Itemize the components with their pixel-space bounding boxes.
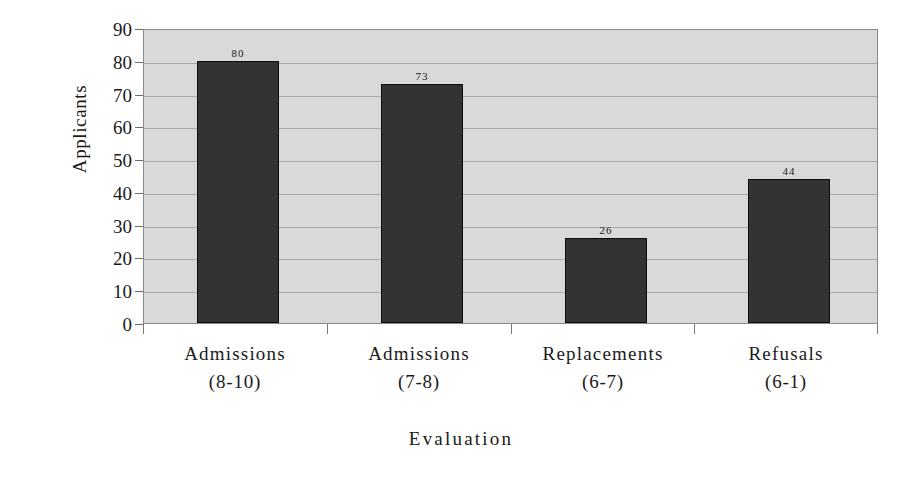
x-category-name: Replacements bbox=[543, 343, 664, 364]
y-tick-label: 70 bbox=[88, 85, 132, 104]
y-tickmark bbox=[135, 62, 143, 63]
x-category-name: Admissions bbox=[184, 343, 286, 364]
x-tickmark bbox=[511, 324, 512, 334]
x-category-name: Admissions bbox=[368, 343, 470, 364]
x-category-label: Refusals (6-1) bbox=[748, 340, 823, 395]
y-tick-label: 90 bbox=[88, 20, 132, 39]
bar-value-label: 73 bbox=[416, 70, 429, 82]
y-tick-label: 10 bbox=[88, 282, 132, 301]
y-tick-label: 40 bbox=[88, 183, 132, 202]
y-tickmark bbox=[135, 95, 143, 96]
y-tick-label: 30 bbox=[88, 216, 132, 235]
bar-value-label: 26 bbox=[600, 224, 613, 236]
bar-admissions-8-10 bbox=[197, 61, 279, 323]
y-tickmark bbox=[135, 291, 143, 292]
bar-admissions-7-8 bbox=[381, 84, 463, 323]
x-category-label: Admissions (8-10) bbox=[184, 340, 286, 395]
bar-refusals-6-1 bbox=[748, 179, 830, 323]
x-category-label: Admissions (7-8) bbox=[368, 340, 470, 395]
bar-chart: Applicants 0 10 20 30 40 50 60 70 80 90 bbox=[0, 0, 922, 478]
y-tick-label: 50 bbox=[88, 151, 132, 170]
x-tickmark bbox=[877, 324, 878, 334]
y-tickmark bbox=[135, 226, 143, 227]
x-tickmark bbox=[327, 324, 328, 334]
bar-value-label: 80 bbox=[232, 47, 245, 59]
y-tickmark bbox=[135, 324, 143, 325]
x-category-range: (7-8) bbox=[368, 368, 470, 396]
y-tickmark bbox=[135, 29, 143, 30]
y-axis-tick-labels: 0 10 20 30 40 50 60 70 80 90 bbox=[88, 29, 132, 324]
x-tickmark bbox=[694, 324, 695, 334]
y-tickmark bbox=[135, 193, 143, 194]
x-category-range: (8-10) bbox=[184, 368, 286, 396]
y-tick-label: 20 bbox=[88, 249, 132, 268]
y-tickmark bbox=[135, 160, 143, 161]
y-tickmark bbox=[135, 258, 143, 259]
bar-replacements-6-7 bbox=[565, 238, 647, 323]
y-tick-label: 0 bbox=[88, 315, 132, 334]
plot-area: 80 73 26 44 bbox=[143, 29, 878, 324]
x-tickmark bbox=[143, 324, 144, 334]
x-category-range: (6-7) bbox=[543, 368, 664, 396]
x-axis-title: Evaluation bbox=[0, 428, 922, 450]
bar-value-label: 44 bbox=[783, 165, 796, 177]
y-tickmark bbox=[135, 127, 143, 128]
x-category-label: Replacements (6-7) bbox=[543, 340, 664, 395]
x-category-name: Refusals bbox=[748, 343, 823, 364]
y-tick-label: 80 bbox=[88, 52, 132, 71]
y-tick-label: 60 bbox=[88, 118, 132, 137]
x-category-range: (6-1) bbox=[748, 368, 823, 396]
